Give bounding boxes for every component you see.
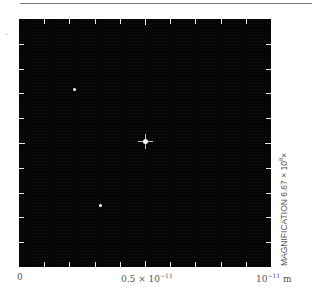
tick-right <box>266 242 271 243</box>
tick-left <box>19 217 24 218</box>
tick-left <box>19 242 24 243</box>
tick-left <box>19 93 24 94</box>
tick-left <box>19 193 24 194</box>
tick-bottom <box>195 262 196 267</box>
tick-bottom <box>44 262 45 267</box>
tick-bottom <box>221 262 222 267</box>
magnification-prefix: MAGNIFICATION 6.67 × 10 <box>279 161 289 266</box>
tick-left <box>19 168 24 169</box>
tick-right <box>266 69 271 70</box>
tick-left <box>19 118 24 119</box>
x-label-mid-mantissa: 0.5 × 10 <box>121 274 160 284</box>
spot-center <box>143 139 148 144</box>
magnification-exponent: 8 <box>278 158 284 161</box>
tick-top <box>195 19 196 24</box>
tick-bottom <box>246 262 247 267</box>
tick-bottom <box>170 262 171 267</box>
tick-bottom <box>95 262 96 267</box>
x-label-zero-text: 0 <box>17 272 23 282</box>
tick-right <box>266 217 271 218</box>
tick-right <box>266 93 271 94</box>
tick-right <box>266 193 271 194</box>
tick-top <box>95 19 96 24</box>
spot-lower <box>99 204 102 207</box>
tick-bottom <box>69 262 70 267</box>
tick-top <box>69 19 70 24</box>
spot-upper-left <box>73 88 76 91</box>
tick-right <box>266 168 271 169</box>
tick-right <box>266 118 271 119</box>
tick-top <box>221 19 222 24</box>
tick-top <box>145 19 146 25</box>
x-label-mid-exponent: −11 <box>160 272 173 279</box>
x-label-end-unit: m <box>280 274 291 284</box>
tick-top <box>120 19 121 24</box>
tick-left <box>19 44 24 45</box>
x-label-zero: 0 <box>17 272 23 282</box>
tick-right <box>265 143 271 144</box>
tick-left <box>19 143 25 144</box>
x-label-end: 10−11 m <box>256 272 292 284</box>
x-label-end-base: 10 <box>256 274 267 284</box>
x-label-mid: 0.5 × 10−11 <box>121 272 173 284</box>
x-label-end-exponent: −11 <box>267 272 280 279</box>
tick-right <box>266 44 271 45</box>
tick-top <box>44 19 45 24</box>
tick-top <box>246 19 247 24</box>
tick-left <box>19 69 24 70</box>
tick-top <box>170 19 171 24</box>
tick-bottom <box>145 261 146 267</box>
top-rule <box>20 3 312 4</box>
side-mark <box>5 34 8 35</box>
magnification-label: MAGNIFICATION 6.67 × 108× <box>278 153 289 266</box>
tick-bottom <box>120 262 121 267</box>
magnification-suffix: × <box>279 153 289 158</box>
micrograph-plot <box>19 19 271 267</box>
